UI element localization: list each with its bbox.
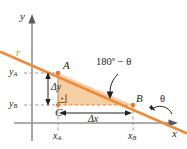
point-c-label: C xyxy=(55,107,62,118)
y-axis-label: y xyxy=(20,11,25,22)
right-angle-dot xyxy=(61,98,63,100)
point-b-label: B xyxy=(136,93,143,104)
x-b-tick-label: xB xyxy=(128,131,136,142)
point-a-marker xyxy=(56,71,61,76)
point-a-label: A xyxy=(63,60,70,71)
delta-y-arrowhead-bottom xyxy=(45,99,50,106)
supplement-angle-leader xyxy=(110,74,118,93)
x-a-tick-label: xA xyxy=(53,131,61,142)
y-a-tick-label-sub: A xyxy=(13,70,17,77)
x-a-tick-label-sub: A xyxy=(57,134,61,141)
x-axis-label: x xyxy=(172,128,177,139)
delta-x-label: Δx xyxy=(88,114,98,124)
y-a-tick-label: yA xyxy=(9,67,17,78)
triangle-abc-fill xyxy=(58,73,133,105)
y-b-tick-label: yB xyxy=(9,99,17,110)
geometry-figure xyxy=(0,0,187,149)
y-b-tick-label-sub: B xyxy=(13,102,17,109)
x-b-tick-label-sub: B xyxy=(132,134,136,141)
y-axis-arrowhead xyxy=(28,14,35,24)
theta-angle-label: θ xyxy=(160,94,165,105)
line-r-label: r xyxy=(16,47,20,58)
delta-y-label: Δy xyxy=(51,82,61,92)
delta-x-arrowhead-right xyxy=(125,110,132,115)
point-b-marker xyxy=(131,103,136,108)
supplement-angle-label: 180º − θ xyxy=(96,57,131,68)
